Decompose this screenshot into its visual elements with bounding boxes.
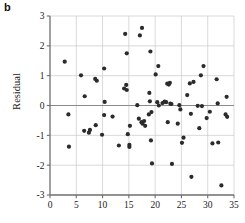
x-tick-label: 10 [98,200,108,210]
data-point [63,60,67,64]
data-point [143,124,147,128]
data-point [149,138,153,142]
data-point [88,128,92,132]
data-point [94,123,98,127]
y-tick-label: 0 [40,101,45,111]
x-tick-label: 35 [229,200,239,210]
data-point [208,110,212,114]
data-point [102,66,106,70]
data-point [191,80,195,84]
data-point [126,132,130,136]
data-point [142,119,146,123]
data-point [157,103,161,107]
data-point [219,183,223,187]
data-point [124,83,128,87]
data-point [188,81,192,85]
x-axis-tick-labels: 05101520253035 [48,200,239,210]
tick-marks [47,16,234,198]
y-tick-label: 3 [40,11,45,21]
data-point [125,51,129,55]
data-point [205,116,209,120]
data-point [189,175,193,179]
data-point [164,100,168,104]
data-point [225,95,229,99]
data-point [67,145,71,149]
data-point [176,122,180,126]
data-point [149,110,153,114]
data-point [147,91,151,95]
data-point [170,162,174,166]
data-point [148,49,152,53]
scatter-plot: 05101520253035 3210-1-2-3 [0,0,245,223]
data-point [197,126,201,130]
x-tick-label: 5 [74,200,79,210]
data-points [63,26,230,188]
y-axis-tick-labels: 3210-1-2-3 [37,11,45,200]
data-point [178,107,182,111]
data-point [215,77,219,81]
data-point [82,129,86,133]
data-point [127,143,131,147]
x-tick-label: 30 [203,200,213,210]
data-point [125,88,129,92]
data-point [156,64,160,68]
y-tick-label: 1 [40,71,45,81]
data-point [137,117,141,121]
data-point [138,33,142,37]
data-point [103,100,107,104]
data-point [102,113,106,117]
x-tick-label: 25 [177,200,187,210]
data-point [196,104,200,108]
y-tick-label: -1 [37,131,45,141]
data-point [100,133,104,137]
x-tick-label: 20 [150,200,160,210]
data-point [148,99,152,103]
x-tick-label: 0 [48,200,53,210]
data-point [225,115,229,119]
figure-panel-b: b Residual 05101520253035 3210-1-2-3 [0,0,245,223]
y-tick-label: -2 [37,161,45,171]
x-tick-label: 15 [124,200,134,210]
data-point [140,26,144,30]
data-point [128,124,132,128]
data-point [180,141,184,145]
data-point [117,143,121,147]
data-point [154,72,158,76]
data-point [168,81,172,85]
data-point [216,140,220,144]
data-point [210,141,214,145]
data-point [150,161,154,165]
data-point [200,104,204,108]
data-point [216,101,220,105]
data-point [79,73,83,77]
data-point [169,102,173,106]
data-point [199,73,203,77]
data-point [110,114,114,118]
data-point [83,94,87,98]
data-point [189,112,193,116]
data-point [135,103,139,107]
data-point [185,93,189,97]
data-point [66,112,70,116]
data-point [181,136,185,140]
data-point [177,103,181,107]
y-tick-label: 2 [40,41,45,51]
data-point [95,79,99,83]
data-point [123,32,127,36]
data-point [201,64,205,68]
y-tick-label: -3 [37,190,45,200]
data-point [166,120,170,124]
